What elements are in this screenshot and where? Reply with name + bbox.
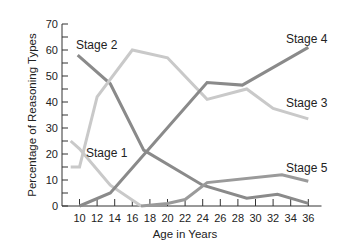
x-tick-label: 12 bbox=[91, 212, 103, 224]
label-stage-4: Stage 4 bbox=[286, 32, 328, 46]
chart-svg: 0102030405060701012141618202224262830323… bbox=[0, 0, 344, 252]
label-stage-2: Stage 2 bbox=[76, 38, 118, 52]
reasoning-stages-line-chart: 0102030405060701012141618202224262830323… bbox=[0, 0, 344, 252]
y-tick-label: 0 bbox=[52, 200, 58, 212]
x-tick-label: 16 bbox=[126, 212, 138, 224]
x-tick-label: 28 bbox=[232, 212, 244, 224]
y-tick-label: 40 bbox=[46, 96, 58, 108]
x-tick-label: 26 bbox=[214, 212, 226, 224]
label-stage-5: Stage 5 bbox=[286, 161, 328, 175]
y-tick-label: 70 bbox=[46, 18, 58, 30]
x-tick-label: 36 bbox=[302, 212, 314, 224]
y-tick-label: 30 bbox=[46, 122, 58, 134]
x-tick-label: 32 bbox=[267, 212, 279, 224]
series-labels: Stage 2Stage 1Stage 4Stage 3Stage 5 bbox=[76, 32, 328, 175]
x-tick-label: 10 bbox=[73, 212, 85, 224]
x-tick-label: 20 bbox=[161, 212, 173, 224]
y-tick-label: 10 bbox=[46, 174, 58, 186]
y-tick-label: 50 bbox=[46, 70, 58, 82]
label-stage-1: Stage 1 bbox=[86, 146, 128, 160]
y-tick-label: 20 bbox=[46, 148, 58, 160]
x-tick-label: 14 bbox=[109, 212, 121, 224]
series-lines bbox=[71, 47, 309, 206]
label-stage-3: Stage 3 bbox=[286, 96, 328, 110]
x-tick-label: 30 bbox=[249, 212, 261, 224]
x-tick-label: 18 bbox=[144, 212, 156, 224]
x-tick-label: 34 bbox=[285, 212, 297, 224]
x-tick-label: 24 bbox=[197, 212, 209, 224]
series-line-stage-4 bbox=[80, 47, 309, 206]
y-tick-label: 60 bbox=[46, 44, 58, 56]
x-tick-label: 22 bbox=[179, 212, 191, 224]
y-axis-label: Percentage of Reasoning Types bbox=[26, 33, 38, 197]
x-axis-label: Age in Years bbox=[153, 228, 218, 240]
